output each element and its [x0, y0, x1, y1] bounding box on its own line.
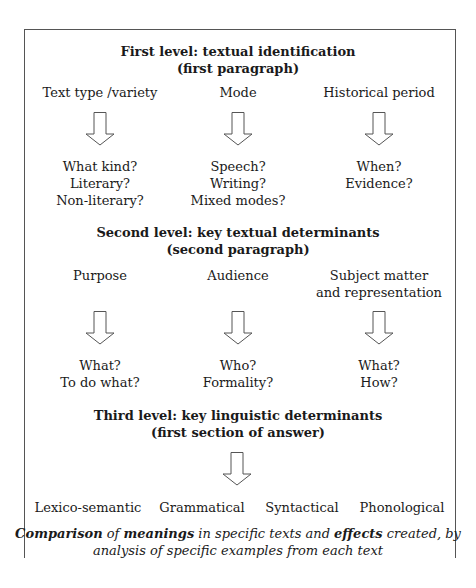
level2-label-subject-matter: Subject matter	[299, 267, 459, 284]
footer-word-comparison: Comparison	[15, 526, 103, 541]
level1-q-period-1: When?	[299, 158, 459, 175]
level1-label-historical-period: Historical period	[299, 84, 459, 101]
down-arrow-icon	[221, 452, 253, 486]
level1-label-text-type: Text type /variety	[20, 84, 180, 101]
level2-q-purpose-1: What?	[20, 357, 180, 374]
down-arrow-icon	[84, 112, 116, 146]
level3-subtitle: (first section of answer)	[0, 424, 476, 441]
level2-q-purpose-2: To do what?	[20, 374, 180, 391]
level1-q-mode-2: Writing?	[158, 175, 318, 192]
level1-q-text-type-3: Non-literary?	[20, 192, 180, 209]
level1-subtitle: (first paragraph)	[0, 60, 476, 77]
level3-item-phonological: Phonological	[332, 499, 472, 516]
level1-q-mode-3: Mixed modes?	[158, 192, 318, 209]
footer-word-effects: effects	[334, 526, 383, 541]
level2-label-audience: Audience	[158, 267, 318, 284]
footer-word-meanings: meanings	[124, 526, 195, 541]
down-arrow-icon	[363, 311, 395, 345]
level2-label-purpose: Purpose	[20, 267, 180, 284]
down-arrow-icon	[222, 311, 254, 345]
level2-subtitle: (second paragraph)	[0, 241, 476, 258]
level1-q-text-type-2: Literary?	[20, 175, 180, 192]
level2-title: Second level: key textual determinants	[0, 224, 476, 241]
down-arrow-icon	[222, 112, 254, 146]
down-arrow-icon	[84, 311, 116, 345]
level2-q-subject-2: How?	[299, 374, 459, 391]
level1-q-period-2: Evidence?	[299, 175, 459, 192]
level1-label-mode: Mode	[158, 84, 318, 101]
level2-label-representation: and representation	[299, 284, 459, 301]
footer-text: of	[103, 526, 124, 541]
footer-text: created, by	[383, 526, 461, 541]
level2-q-audience-1: Who?	[158, 357, 318, 374]
level1-title: First level: textual identification	[0, 43, 476, 60]
level3-title: Third level: key linguistic determinants	[0, 407, 476, 424]
footer-line-1: Comparison of meanings in specific texts…	[0, 525, 476, 542]
footer-text: in specific texts and	[194, 526, 334, 541]
footer-line-2: analysis of specific examples from each …	[0, 542, 476, 559]
level2-q-subject-1: What?	[299, 357, 459, 374]
level2-q-audience-2: Formality?	[158, 374, 318, 391]
level1-q-mode-1: Speech?	[158, 158, 318, 175]
down-arrow-icon	[363, 112, 395, 146]
level1-q-text-type-1: What kind?	[20, 158, 180, 175]
